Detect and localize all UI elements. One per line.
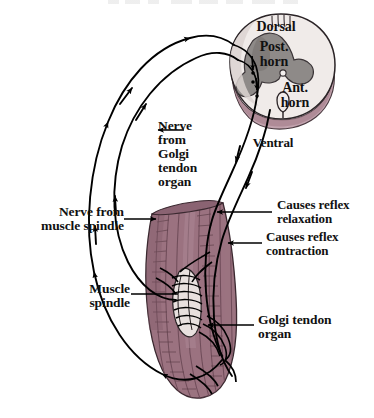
label-golgi-tendon-organ: Golgi tendon organ: [258, 313, 368, 341]
label-post-horn: Post. horn: [243, 40, 305, 69]
label-nerve-from-golgi: Nerve from Golgi tendon organ: [158, 119, 222, 189]
label-dorsal: Dorsal: [238, 20, 314, 35]
label-causes-reflex-relaxation: Causes reflex relaxation: [277, 198, 374, 225]
central-canal: [280, 70, 286, 76]
label-ventral: Ventral: [237, 136, 309, 150]
reflex-arc-diagram: Dorsal Post. horn Ant. horn Ventral Nerv…: [0, 0, 374, 418]
label-ant-horn: Ant. horn: [266, 81, 324, 110]
label-nerve-from-muscle-spindle: Nerve from muscle spindle: [20, 205, 124, 233]
label-causes-reflex-contraction: Causes reflex contraction: [266, 230, 374, 257]
label-muscle-spindle: Muscle spindle: [58, 282, 130, 310]
